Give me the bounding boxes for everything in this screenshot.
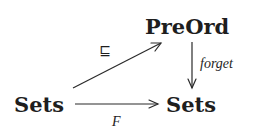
- arrow-forget: [188, 42, 196, 88]
- label-forget: forget: [200, 56, 234, 71]
- label-functor: F: [111, 114, 121, 129]
- node-preord: PreOrd: [145, 14, 230, 39]
- commutative-diagram: PreOrd Sets Sets ⊑ forget F: [0, 0, 269, 131]
- arrow-functor: [75, 100, 158, 108]
- node-sets-left: Sets: [14, 92, 64, 117]
- label-inclusion: ⊑: [99, 42, 111, 58]
- node-sets-right: Sets: [166, 92, 216, 117]
- arrow-inclusion: [73, 43, 161, 88]
